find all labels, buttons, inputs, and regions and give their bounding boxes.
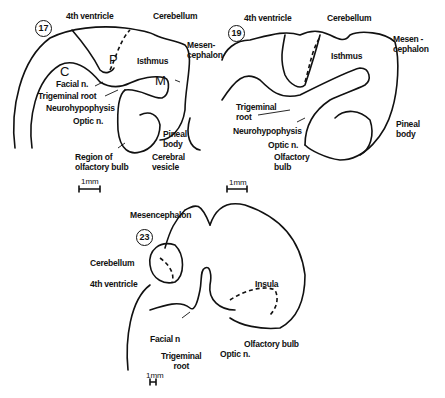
figure-19-drawing bbox=[222, 31, 398, 160]
stage-number-23: 23 bbox=[136, 229, 153, 246]
scale-label-23: 1mm bbox=[146, 371, 164, 380]
label-trigeminal-root-17: Trigeminal root bbox=[38, 92, 96, 102]
label-fourth-ventricle-17: 4th ventricle bbox=[66, 12, 113, 22]
label-mesencephalon-17: Mesen- cephalon bbox=[187, 41, 223, 60]
label-olfactory-bulb-23: Olfactory bulb bbox=[244, 340, 299, 350]
label-trigeminal-root-19: Trigeminal root bbox=[236, 103, 277, 122]
stage-number-17: 17 bbox=[35, 20, 52, 37]
label-region-olfactory-bulb-17: Region of olfactory bulb bbox=[75, 153, 128, 172]
label-p-17: P bbox=[109, 52, 118, 67]
label-neurohypophysis-19: Neurohypophysis bbox=[233, 127, 302, 137]
label-neurohypophysis-17: Neurohypophysis bbox=[46, 104, 115, 114]
label-optic-n-17: Optic n. bbox=[73, 117, 103, 127]
label-cerebellum-19: Cerebellum bbox=[327, 14, 371, 24]
label-isthmus-17: Isthmus bbox=[137, 57, 168, 67]
label-m-17: M bbox=[155, 73, 166, 88]
label-mesencephalon-19: Mesen - cephalon bbox=[393, 35, 429, 54]
label-trigeminal-root-23: Trigeminal root bbox=[161, 352, 202, 371]
label-mesencephalon-23: Mesencephalon bbox=[130, 211, 191, 221]
scale-bar-17 bbox=[79, 186, 100, 192]
scale-label-17: 1mm bbox=[81, 177, 99, 186]
label-c-17: C bbox=[60, 64, 69, 79]
label-fourth-ventricle-23: 4th ventricle bbox=[90, 280, 137, 290]
scale-label-19: 1mm bbox=[229, 178, 247, 187]
label-pineal-body-19: Pineal body bbox=[396, 120, 420, 139]
label-cerebellum-23: Cerebellum bbox=[90, 259, 134, 269]
label-cerebral-vesicle-17: Cerebral vesicle bbox=[152, 153, 185, 172]
stage-number-19: 19 bbox=[228, 25, 245, 42]
label-facial-n-17: Facial n. bbox=[56, 80, 88, 90]
label-cerebellum-17: Cerebellum bbox=[153, 12, 197, 22]
label-insula-23: Insula bbox=[255, 280, 278, 290]
label-olfactory-bulb-19: Olfactory bulb bbox=[274, 153, 310, 172]
label-optic-n-19: Optic n. bbox=[268, 141, 298, 151]
label-optic-n-23: Optic n. bbox=[220, 350, 250, 360]
label-pineal-body-17: Pineal body bbox=[163, 130, 187, 149]
label-fourth-ventricle-19: 4th ventricle bbox=[244, 14, 291, 24]
label-facial-n-23: Facial n bbox=[150, 335, 180, 345]
label-isthmus-19: Isthmus bbox=[331, 52, 362, 62]
